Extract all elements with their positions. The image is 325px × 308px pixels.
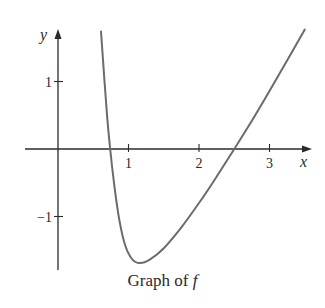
y-tick-label: −1 xyxy=(37,210,52,225)
y-axis-label: y xyxy=(38,26,48,44)
caption-text: Graph of xyxy=(128,271,193,290)
x-tick-label: 2 xyxy=(196,156,203,171)
x-ticks: 123 xyxy=(125,144,273,171)
x-axis-label: x xyxy=(299,153,307,170)
chart-caption: Graph of f xyxy=(0,271,325,291)
function-curve xyxy=(101,30,305,264)
y-axis-arrow-icon xyxy=(55,29,62,39)
x-tick-label: 3 xyxy=(266,156,273,171)
caption-function-name: f xyxy=(193,271,198,290)
x-tick-label: 1 xyxy=(125,156,132,171)
y-tick-label: 1 xyxy=(45,75,52,90)
x-axis-arrow-icon xyxy=(302,146,312,153)
function-graph: 123 1−1 x y xyxy=(0,0,325,308)
